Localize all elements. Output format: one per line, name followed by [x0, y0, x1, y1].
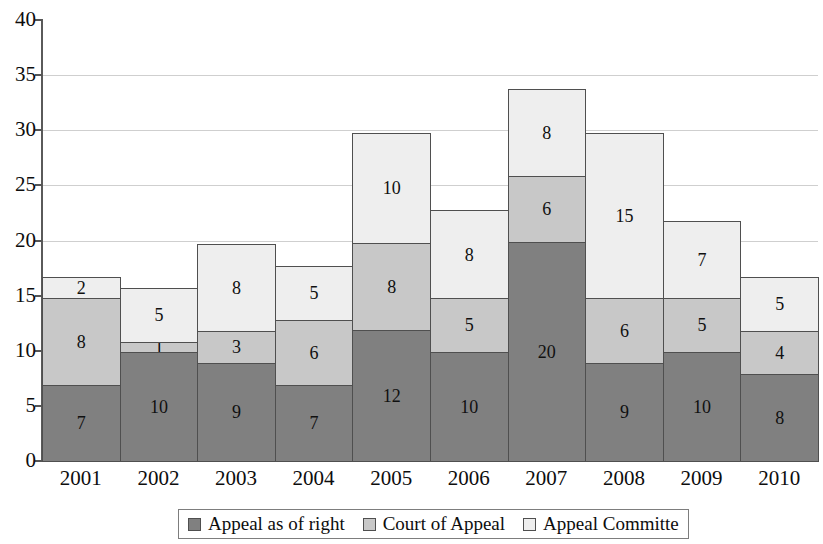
- bar-segment[interactable]: 7: [663, 221, 742, 298]
- bar-column-2009[interactable]: 7510: [663, 20, 741, 461]
- bar-segment[interactable]: 10: [663, 352, 742, 462]
- bar-segment[interactable]: 5: [275, 266, 354, 321]
- x-tick-label-2006: 2006: [430, 466, 508, 490]
- bar-value-label: 6: [620, 322, 629, 340]
- bar-column-2005[interactable]: 10812: [352, 20, 430, 461]
- legend-label: Appeal as of right: [208, 514, 345, 534]
- legend-item[interactable]: Court of Appeal: [363, 514, 505, 534]
- bar-segment[interactable]: 8: [352, 243, 431, 331]
- x-axis-labels: 2001200220032004200520062007200820092010: [42, 466, 818, 490]
- bar-value-label: 4: [775, 344, 784, 362]
- bar-value-label: 20: [538, 343, 556, 361]
- bar-column-2002[interactable]: 5110: [120, 20, 198, 461]
- y-tick-label: 35: [0, 64, 36, 85]
- bar-value-label: 7: [698, 251, 707, 269]
- bar-value-label: 10: [693, 398, 711, 416]
- bar-segment[interactable]: 5: [740, 277, 819, 332]
- bar-value-label: 9: [620, 403, 629, 421]
- bar-value-label: 10: [460, 398, 478, 416]
- bar-value-label: 15: [615, 207, 633, 225]
- bar-value-label: 8: [232, 279, 241, 297]
- legend-item[interactable]: Appeal as of right: [188, 514, 345, 534]
- y-tick-label: 15: [0, 285, 36, 306]
- bar-value-label: 5: [698, 316, 707, 334]
- bar-segment[interactable]: 5: [430, 298, 509, 353]
- bar-segment[interactable]: 15: [585, 133, 664, 298]
- bar-segment[interactable]: 10: [120, 352, 199, 462]
- y-tick-label: 5: [0, 395, 36, 416]
- bar-segment[interactable]: 4: [740, 331, 819, 375]
- bar-value-label: 5: [154, 306, 163, 324]
- bar-column-2004[interactable]: 567: [275, 20, 353, 461]
- bar-column-2003[interactable]: 839: [197, 20, 275, 461]
- bar-column-2007[interactable]: 8620: [508, 20, 586, 461]
- bar-segment[interactable]: 5: [663, 298, 742, 353]
- bar-value-label: 5: [310, 284, 319, 302]
- chart-legend: Appeal as of rightCourt of AppealAppeal …: [178, 509, 689, 539]
- bar-segment[interactable]: 7: [42, 385, 121, 462]
- bar-value-label: 6: [542, 200, 551, 218]
- bar-value-label: 7: [310, 414, 319, 432]
- bar-segment[interactable]: 2: [42, 277, 121, 299]
- bar-value-label: 2: [77, 279, 86, 297]
- x-tick-label-2004: 2004: [275, 466, 353, 490]
- x-tick-label-2001: 2001: [42, 466, 120, 490]
- bar-segment[interactable]: 9: [585, 363, 664, 462]
- bar-value-label: 10: [150, 398, 168, 416]
- legend-label: Appeal Committe: [543, 514, 679, 534]
- bar-segment[interactable]: 9: [197, 363, 276, 462]
- bar-segment[interactable]: 8: [430, 210, 509, 298]
- bar-column-2001[interactable]: 287: [42, 20, 120, 461]
- y-tick-mark: [35, 184, 42, 186]
- bar-value-label: 3: [232, 338, 241, 356]
- bar-column-2010[interactable]: 548: [740, 20, 818, 461]
- bar-segment[interactable]: 8: [508, 89, 587, 177]
- bar-value-label: 12: [383, 387, 401, 405]
- bar-segment[interactable]: 8: [740, 374, 819, 462]
- x-tick-label-2007: 2007: [508, 466, 586, 490]
- legend-label: Court of Appeal: [383, 514, 505, 534]
- bar-value-label: 8: [542, 124, 551, 142]
- bar-value-label: 6: [310, 344, 319, 362]
- bar-segment[interactable]: 10: [352, 133, 431, 243]
- bar-segment[interactable]: 8: [42, 298, 121, 386]
- bar-column-2006[interactable]: 8510: [430, 20, 508, 461]
- legend-swatch-icon: [363, 518, 376, 531]
- bar-segment[interactable]: 6: [275, 320, 354, 386]
- bar-value-label: 5: [775, 295, 784, 313]
- y-tick-mark: [35, 405, 42, 407]
- y-tick-label: 20: [0, 230, 36, 251]
- bar-value-label: 8: [775, 409, 784, 427]
- y-tick-mark: [35, 350, 42, 352]
- bar-segment[interactable]: 7: [275, 385, 354, 462]
- stacked-bar-chart: 0510152025303540 28751108395671081285108…: [0, 0, 823, 544]
- bar-segment[interactable]: 6: [508, 176, 587, 242]
- bar-value-label: 8: [77, 333, 86, 351]
- x-tick-label-2002: 2002: [120, 466, 198, 490]
- x-tick-label-2009: 2009: [663, 466, 741, 490]
- y-tick-label: 10: [0, 340, 36, 361]
- legend-item[interactable]: Appeal Committe: [523, 514, 679, 534]
- bar-segment[interactable]: 12: [352, 330, 431, 462]
- bar-segment[interactable]: 3: [197, 331, 276, 364]
- bar-column-2008[interactable]: 1569: [585, 20, 663, 461]
- bar-segment[interactable]: 6: [585, 298, 664, 364]
- y-tick-mark: [35, 460, 42, 462]
- bar-segment[interactable]: 10: [430, 352, 509, 462]
- bar-value-label: 5: [465, 316, 474, 334]
- x-tick-label-2003: 2003: [197, 466, 275, 490]
- y-tick-label: 40: [0, 9, 36, 30]
- bar-value-label: 7: [77, 414, 86, 432]
- bar-segment[interactable]: 20: [508, 242, 587, 463]
- y-tick-label: 30: [0, 119, 36, 140]
- x-tick-label-2010: 2010: [740, 466, 818, 490]
- y-tick-mark: [35, 19, 42, 21]
- x-tick-label-2005: 2005: [352, 466, 430, 490]
- bar-value-label: 10: [383, 179, 401, 197]
- legend-swatch-icon: [523, 518, 536, 531]
- bar-value-label: 9: [232, 403, 241, 421]
- bar-segment[interactable]: 8: [197, 244, 276, 332]
- y-tick-mark: [35, 129, 42, 131]
- bar-segment[interactable]: 5: [120, 288, 199, 343]
- y-tick-mark: [35, 74, 42, 76]
